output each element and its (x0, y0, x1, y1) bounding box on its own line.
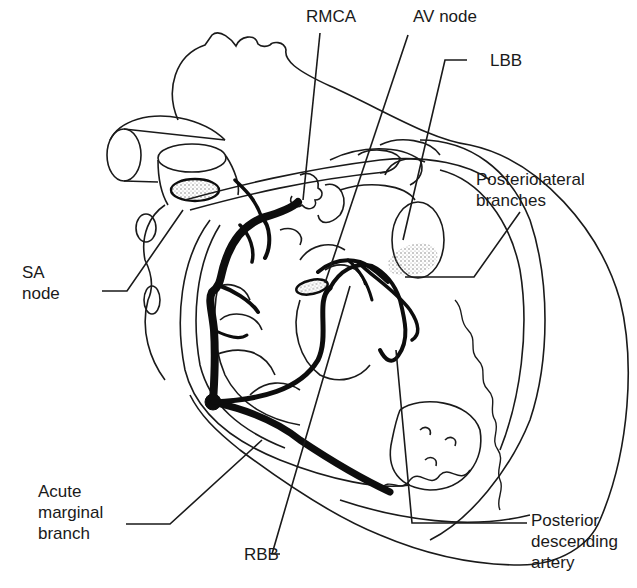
label-line: Posterior (531, 510, 618, 531)
label-sa-node: SA node (22, 262, 60, 304)
label-line: artery (531, 552, 618, 573)
label-lbb-text: LBB (490, 50, 522, 71)
label-line: branches (476, 190, 585, 211)
lbb-region (388, 244, 438, 276)
label-rmca-text: RMCA (306, 6, 356, 27)
heart-diagram: RMCA AV node LBB Posteriolateral branche… (0, 0, 637, 588)
label-av-node: AV node (413, 6, 477, 27)
label-posterior-descending-artery: Posterior descending artery (531, 510, 618, 573)
label-line: Posteriolateral (476, 169, 585, 190)
label-line: marginal (38, 502, 103, 523)
label-line: branch (38, 523, 103, 544)
label-posteriolateral-branches: Posteriolateral branches (476, 169, 585, 211)
label-rbb-text: RBB (244, 544, 279, 565)
leader-posterior-descending (396, 350, 527, 523)
leader-acute-marginal (126, 440, 262, 524)
label-line: Acute (38, 481, 103, 502)
leader-sa-node (102, 210, 183, 291)
label-rmca: RMCA (306, 6, 356, 27)
leader-rbb (272, 286, 350, 554)
label-acute-marginal-branch: Acute marginal branch (38, 481, 103, 544)
heart-outline (107, 33, 628, 565)
label-line: descending (531, 531, 618, 552)
label-line: node (22, 283, 60, 304)
label-av-node-text: AV node (413, 6, 477, 27)
label-lbb: LBB (490, 50, 522, 71)
label-rbb: RBB (244, 544, 279, 565)
coronary-arteries (205, 180, 418, 492)
label-line: SA (22, 262, 60, 283)
